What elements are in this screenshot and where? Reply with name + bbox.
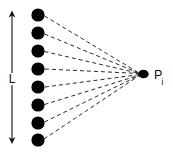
- array-length-label: L: [9, 72, 16, 86]
- array-element-7: [31, 116, 44, 129]
- observation-point-marker: [138, 70, 148, 79]
- array-element-5: [31, 80, 44, 93]
- array-element-1: [31, 8, 44, 21]
- figure-container: L P i: [0, 0, 173, 157]
- array-element-2: [31, 26, 44, 39]
- array-element-6: [31, 98, 44, 111]
- array-element-3: [31, 44, 44, 57]
- array-element-8: [31, 133, 44, 146]
- figure-background: [0, 0, 173, 157]
- array-element-4: [31, 62, 44, 75]
- observation-point-label-subscript: i: [162, 77, 164, 87]
- array-geometry-diagram: L P i: [0, 0, 173, 157]
